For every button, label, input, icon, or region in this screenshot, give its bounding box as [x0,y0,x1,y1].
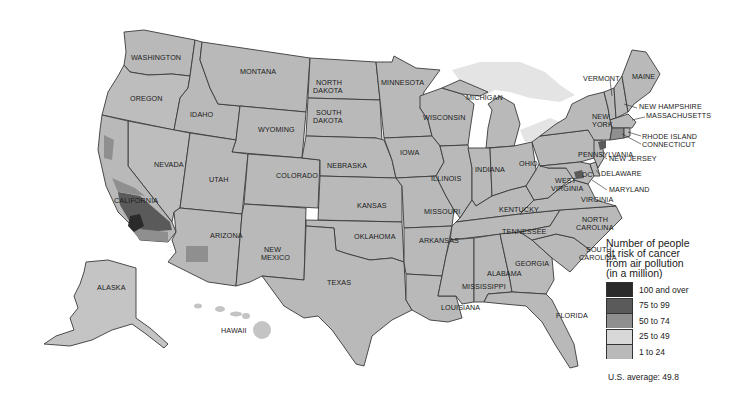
legend-label: 25 to 49 [639,331,670,341]
state-label: NEBRASKA [327,161,367,170]
state-label: NEW JERSEY [609,154,657,163]
state-florida[interactable] [484,292,578,368]
state-alaska[interactable] [44,260,168,348]
state-label: CAROLINA [576,223,614,232]
state-label: MISSISSIPPI [462,282,506,291]
state-label: ARIZONA [210,231,243,240]
state-label: DC [582,170,593,179]
state-label: MAINE [632,72,655,81]
us-average: U.S. average: 49.8 [608,372,750,382]
state-indiana[interactable] [468,148,492,206]
state-label: VERMONT [583,74,620,83]
legend-label: 75 to 99 [639,300,670,310]
legend-item: 25 to 49 [606,329,750,345]
legend: Number of people at risk of cancer from … [606,238,750,382]
state-montana[interactable] [200,42,310,112]
legend-swatch [606,282,633,297]
state-label: FLORIDA [556,311,588,320]
state-label: MARYLAND [609,185,650,194]
state-label: WISCONSIN [423,113,465,122]
state-label: KENTUCKY [499,205,539,214]
state-label: NEW HAMPSHIRE [639,102,702,111]
state-label: OHIO [519,159,538,168]
state-label: ALASKA [97,283,126,292]
state-label: MASSACHUSETTS [646,111,711,120]
state-label: MISSOURI [424,207,460,216]
state-label: KANSAS [357,201,387,210]
state-label: MINNESOTA [381,78,424,87]
state-label: ARKANSAS [419,236,459,245]
legend-title: Number of people at risk of cancer from … [606,238,750,278]
state-label: VIRGINIA [551,184,583,193]
state-label: MEXICO [261,253,290,262]
legend-swatch [606,313,633,328]
legend-label: 100 and over [639,285,689,295]
state-label: COLORADO [276,171,318,180]
state-label: IOWA [400,148,419,157]
legend-swatch [606,298,633,313]
legend-item: 100 and over [606,282,750,298]
state-label: LOUISIANA [441,303,480,312]
state-colorado[interactable] [244,154,320,208]
legend-swatch [606,329,633,344]
state-label: NEVADA [154,160,184,169]
state-label: ILLINOIS [431,174,461,183]
state-kansas[interactable] [318,176,402,222]
state-label: WASHINGTON [131,53,181,62]
state-label: CALIFORNIA [114,196,158,205]
state-label: HAWAII [221,326,247,335]
state-label: MICHIGAN [466,93,503,102]
state-label: GEORGIA [515,259,549,268]
legend-label: 50 to 74 [639,316,670,326]
legend-item: 50 to 74 [606,313,750,329]
arizona-phoenix-risk-zone [186,246,208,262]
legend-label: 1 to 24 [639,347,665,357]
state-label: DAKOTA [313,116,343,125]
state-label: IDAHO [190,110,214,119]
legend-item: 75 to 99 [606,298,750,314]
legend-swatch [606,344,633,359]
legend-title-line: (in a million) [606,268,750,278]
state-label: VIRGINIA [581,195,613,204]
state-label: TEXAS [327,278,351,287]
state-label: ALABAMA [487,269,522,278]
state-label: OKLAHOMA [354,232,396,241]
state-label: WYOMING [258,125,295,134]
state-label: YORK [592,120,613,129]
state-label: CONNECTICUT [642,140,696,149]
legend-item: 1 to 24 [606,344,750,360]
state-label: INDIANA [475,165,505,174]
state-label: DAKOTA [313,86,343,95]
state-label: TENNESSEE [502,227,547,236]
state-label: OREGON [130,94,163,103]
state-label: UTAH [209,175,228,184]
state-label: MONTANA [240,67,276,76]
state-label: DELAWARE [601,169,642,178]
state-connecticut[interactable] [610,128,624,140]
